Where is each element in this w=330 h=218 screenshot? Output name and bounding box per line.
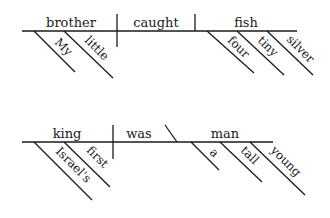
modifier-word: a (207, 145, 222, 160)
modifier-word: tall (238, 143, 262, 167)
modifier-word: silver (284, 32, 318, 66)
sentence-diagrams: brother caught fish My little four tiny … (0, 0, 330, 218)
subject-word: king (53, 126, 82, 141)
modifier-word: tiny (255, 33, 281, 59)
verb-complement-slash (165, 125, 177, 142)
modifier-word: first (84, 143, 112, 171)
diagram-sentence-1: brother caught fish My little four tiny … (22, 14, 318, 78)
modifier-word: four (225, 33, 253, 61)
modifier-word: young (267, 143, 304, 180)
modifier-word: little (82, 33, 112, 63)
subject-word: brother (46, 15, 97, 30)
verb-word: caught (133, 15, 179, 30)
verb-word: was (126, 126, 152, 141)
diagram-sentence-2: king was man Israel's first a tall young (22, 125, 305, 200)
object-word: fish (234, 15, 258, 30)
complement-word: man (211, 126, 240, 141)
